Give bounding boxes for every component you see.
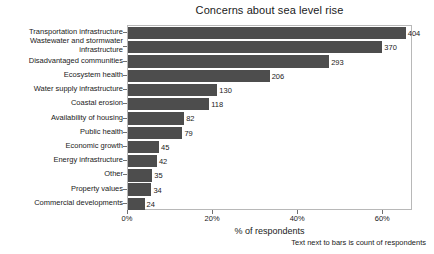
y-axis-tick-label: Disadvantaged communities xyxy=(0,56,123,65)
y-axis-tick-mark xyxy=(123,32,127,33)
bar xyxy=(128,198,145,210)
bar xyxy=(128,27,406,39)
bar xyxy=(128,183,151,195)
x-axis-tick-label: 40% xyxy=(290,214,305,223)
bar-value-label: 35 xyxy=(152,171,162,180)
y-axis-label-group: Transportation infrastructureWastewater … xyxy=(0,25,123,210)
y-axis-tick-mark xyxy=(123,61,127,62)
bar xyxy=(128,70,270,82)
bar-value-label: 42 xyxy=(157,157,167,166)
x-axis-tick-label: 60% xyxy=(375,214,390,223)
y-axis-tick-mark xyxy=(123,189,127,190)
bar-row: 42 xyxy=(128,155,413,167)
x-axis-tick-mark xyxy=(127,210,128,214)
y-axis-tick-mark xyxy=(123,132,127,133)
y-axis-tick-mark xyxy=(123,160,127,161)
bar xyxy=(128,84,217,96)
y-axis-tick-mark xyxy=(123,75,127,76)
y-axis-tick-label: Public health xyxy=(0,127,123,136)
bar xyxy=(128,141,159,153)
x-axis-tick-mark xyxy=(297,210,298,214)
y-axis-tick-mark xyxy=(123,118,127,119)
bar xyxy=(128,112,184,124)
plot-area: 40437029320613011882794542353424 xyxy=(127,25,412,210)
bar xyxy=(128,169,152,181)
y-axis-tick-label: Transportation infrastructure xyxy=(0,28,123,37)
y-axis-tick-mark xyxy=(123,103,127,104)
y-axis-tick-label: Coastal erosion xyxy=(0,99,123,108)
bar-row: 82 xyxy=(128,112,413,124)
bar-row: 118 xyxy=(128,98,413,110)
y-axis-tick-label: Commercial developments xyxy=(0,199,123,208)
bar-row: 24 xyxy=(128,198,413,210)
y-axis-tick-label: Ecosystem health xyxy=(0,71,123,80)
y-axis-tick-label: Economic growth xyxy=(0,142,123,151)
x-axis-tick-mark xyxy=(382,210,383,214)
bar xyxy=(128,98,209,110)
x-axis-tick-mark xyxy=(212,210,213,214)
x-axis-title: % of respondents xyxy=(127,226,412,236)
bar-row: 130 xyxy=(128,84,413,96)
bar-row: 206 xyxy=(128,70,413,82)
y-axis-tick-label: Wastewater and stormwater infrastructure xyxy=(0,38,123,55)
y-axis-tick-label: Water supply infrastructure xyxy=(0,85,123,94)
bar xyxy=(128,41,382,53)
x-axis-tick-label: 20% xyxy=(205,214,220,223)
bar xyxy=(128,55,329,67)
x-axis-tick-label: 0% xyxy=(122,214,133,223)
bar-value-label: 82 xyxy=(184,114,194,123)
bar-row: 35 xyxy=(128,169,413,181)
bar-row: 293 xyxy=(128,55,413,67)
bar-value-label: 118 xyxy=(209,100,223,109)
bar-value-label: 45 xyxy=(159,142,169,151)
bar-row: 404 xyxy=(128,27,413,39)
y-axis-tick-mark xyxy=(123,89,127,90)
bar-value-label: 34 xyxy=(151,185,161,194)
y-axis-tick-mark xyxy=(123,174,127,175)
bar-chart-figure: Concerns about sea level rise Transporta… xyxy=(0,0,434,254)
bar xyxy=(128,127,182,139)
y-axis-tick-label: Energy infrastructure xyxy=(0,156,123,165)
bar-value-label: 404 xyxy=(406,29,421,38)
bar-row: 79 xyxy=(128,127,413,139)
y-axis-tick-label: Other xyxy=(0,170,123,179)
y-axis-tick-mark xyxy=(123,46,127,47)
bar-value-label: 130 xyxy=(217,85,232,94)
bar-row: 370 xyxy=(128,41,413,53)
y-axis-tick-label: Property values xyxy=(0,184,123,193)
bar-value-label: 206 xyxy=(270,71,285,80)
bar-row: 34 xyxy=(128,183,413,195)
chart-title: Concerns about sea level rise xyxy=(127,4,412,16)
bars-layer: 40437029320613011882794542353424 xyxy=(128,26,411,209)
chart-footnote: Text next to bars is count of respondent… xyxy=(291,238,426,247)
bar xyxy=(128,155,157,167)
bar-value-label: 293 xyxy=(329,57,344,66)
bar-value-label: 24 xyxy=(145,199,155,208)
bar-value-label: 370 xyxy=(382,43,397,52)
y-axis-tick-mark xyxy=(123,146,127,147)
bar-value-label: 79 xyxy=(182,128,192,137)
y-axis-tick-mark xyxy=(123,203,127,204)
y-axis-tick-label: Availability of housing xyxy=(0,113,123,122)
bar-row: 45 xyxy=(128,141,413,153)
